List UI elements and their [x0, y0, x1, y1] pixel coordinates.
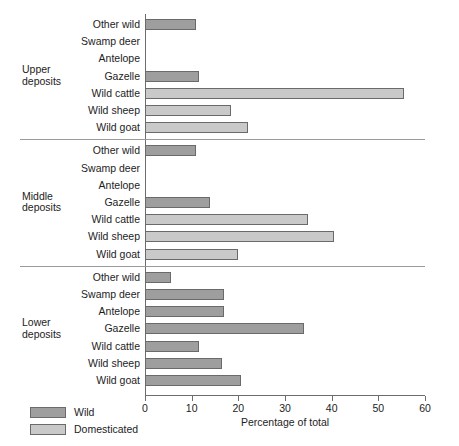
bar [145, 289, 224, 300]
x-axis-tick [425, 396, 426, 401]
bar-category-label: Swamp deer [52, 286, 140, 303]
bar-category-label: Wild cattle [52, 338, 140, 355]
bar-row: Wild cattle [0, 338, 459, 355]
x-axis-label: Percentage of total [145, 416, 425, 428]
bar [145, 197, 210, 208]
bar-category-label: Wild goat [52, 119, 140, 136]
x-axis-tick-label: 60 [410, 402, 440, 414]
bar-category-label: Wild cattle [52, 85, 140, 102]
bar-chart-figure: Other wildSwamp deerAntelopeGazelleWild … [0, 0, 459, 446]
x-axis-tick [332, 396, 333, 401]
bar-category-label: Swamp deer [52, 33, 140, 50]
bar-row: Wild cattle [0, 211, 459, 228]
bar [145, 358, 222, 369]
x-axis-tick-label: 0 [130, 402, 160, 414]
bar-row: Wild cattle [0, 85, 459, 102]
legend-swatch [30, 407, 66, 418]
bar-row: Wild goat [0, 372, 459, 389]
legend-label: Domesticated [74, 422, 138, 437]
deposit-group-label: Upper deposits [22, 64, 94, 87]
bar [145, 272, 171, 283]
x-axis-tick-label: 40 [317, 402, 347, 414]
bar [145, 19, 196, 30]
bar-row: Wild sheep [0, 228, 459, 245]
bar-row: Wild goat [0, 246, 459, 263]
x-axis-tick [238, 396, 239, 401]
bar [145, 71, 199, 82]
bar-row: Wild sheep [0, 102, 459, 119]
bar-category-label: Wild sheep [52, 102, 140, 119]
bar [145, 375, 241, 386]
bar [145, 341, 199, 352]
group-separator-line [20, 139, 425, 140]
bar [145, 323, 304, 334]
legend-swatch [30, 424, 66, 435]
bar-row: Swamp deer [0, 286, 459, 303]
x-axis-tick [145, 396, 146, 401]
x-axis-tick-label: 20 [223, 402, 253, 414]
x-axis: 0102030405060 [145, 395, 425, 396]
bar-category-label: Wild cattle [52, 211, 140, 228]
bar [145, 249, 238, 260]
x-axis-tick [285, 396, 286, 401]
bar-row: Swamp deer [0, 33, 459, 50]
x-axis-tick-label: 50 [363, 402, 393, 414]
bar-category-label: Swamp deer [52, 160, 140, 177]
bar-row: Wild goat [0, 119, 459, 136]
bar-category-label: Wild sheep [52, 228, 140, 245]
deposit-group-label: Lower deposits [22, 317, 94, 340]
bar-category-label: Wild goat [52, 246, 140, 263]
bar [145, 88, 404, 99]
group-separator-line [20, 266, 425, 267]
bar [145, 306, 224, 317]
bar-row: Swamp deer [0, 160, 459, 177]
bar [145, 105, 231, 116]
bar-row: Wild sheep [0, 355, 459, 372]
bar-category-label: Other wild [52, 16, 140, 33]
deposit-group-label: Middle deposits [22, 191, 94, 214]
bar [145, 122, 248, 133]
bar [145, 214, 308, 225]
x-axis-tick-label: 10 [177, 402, 207, 414]
bar-row: Other wild [0, 142, 459, 159]
x-axis-tick [378, 396, 379, 401]
x-axis-tick-label: 30 [270, 402, 300, 414]
x-axis-tick [192, 396, 193, 401]
bar-row: Other wild [0, 16, 459, 33]
bar-category-label: Other wild [52, 142, 140, 159]
bar [145, 145, 196, 156]
bar-row: Other wild [0, 269, 459, 286]
bar-category-label: Wild goat [52, 372, 140, 389]
bar [145, 231, 334, 242]
legend-label: Wild [74, 405, 94, 420]
bar-category-label: Other wild [52, 269, 140, 286]
bar-category-label: Wild sheep [52, 355, 140, 372]
